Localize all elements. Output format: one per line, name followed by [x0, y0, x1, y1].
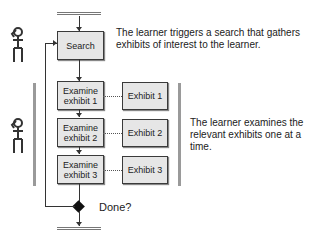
search-step-label: Search	[66, 41, 95, 51]
examine-step-3: Examine exhibit 3	[57, 155, 104, 184]
arrowhead-icon	[76, 113, 82, 117]
examine-step-label: Examine exhibit 2	[63, 123, 98, 143]
exhibit-label: Exhibit 2	[128, 128, 163, 138]
examine-step-1: Examine exhibit 1	[57, 81, 104, 110]
search-step: Search	[57, 31, 104, 60]
exhibit-label: Exhibit 1	[128, 91, 163, 101]
right-bracket	[178, 83, 181, 186]
left-bracket	[33, 83, 36, 186]
thinking-figure-icon	[8, 117, 28, 155]
end-bar	[57, 226, 101, 231]
link-line	[103, 133, 122, 134]
arrowhead-icon	[53, 40, 57, 46]
link-line	[103, 96, 122, 97]
search-note: The learner triggers a search that gathe…	[116, 27, 306, 51]
loop-line	[45, 206, 75, 207]
decision-label: Done?	[99, 201, 131, 213]
exhibit-2: Exhibit 2	[122, 119, 168, 147]
arrowhead-icon	[76, 150, 82, 154]
exhibit-1: Exhibit 1	[122, 82, 168, 110]
thinking-figure-icon	[8, 26, 28, 64]
examine-step-2: Examine exhibit 2	[57, 118, 104, 147]
examine-step-label: Examine exhibit 3	[63, 160, 98, 180]
examine-note: The learner examines the relevant exhibi…	[190, 117, 308, 153]
link-line	[103, 170, 122, 171]
connector	[79, 183, 80, 202]
loop-line	[45, 43, 46, 207]
exhibit-label: Exhibit 3	[128, 165, 163, 175]
exhibit-3: Exhibit 3	[122, 156, 168, 184]
examine-step-label: Examine exhibit 1	[63, 86, 98, 106]
